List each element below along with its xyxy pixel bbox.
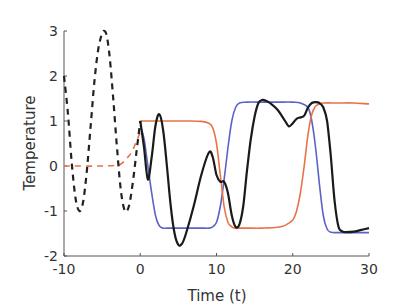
x-tick-label: 20 bbox=[284, 261, 302, 277]
series-lines bbox=[64, 31, 369, 246]
line-chart: -2-10123-100102030 Time (t) Temperature bbox=[0, 0, 399, 308]
series-line bbox=[64, 132, 140, 166]
series-line bbox=[64, 31, 140, 212]
x-axis-label: Time (t) bbox=[186, 287, 246, 305]
x-tick-label: -10 bbox=[53, 261, 76, 277]
y-axis-label: Temperature bbox=[21, 95, 39, 191]
y-tick-label: 2 bbox=[49, 68, 58, 84]
x-tick-label: 30 bbox=[360, 261, 378, 277]
y-tick-label: 1 bbox=[49, 113, 58, 129]
x-tick-label: 0 bbox=[136, 261, 145, 277]
axes: -2-10123-100102030 bbox=[44, 23, 378, 277]
y-tick-label: -1 bbox=[44, 203, 58, 219]
x-tick-label: 10 bbox=[208, 261, 226, 277]
chart-container: -2-10123-100102030 Time (t) Temperature bbox=[0, 0, 399, 308]
y-tick-label: 3 bbox=[49, 23, 58, 39]
y-tick-label: 0 bbox=[49, 158, 58, 174]
